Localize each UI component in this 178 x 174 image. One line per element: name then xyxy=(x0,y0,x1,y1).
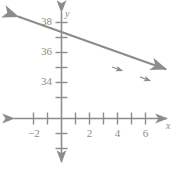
x-tick-label-2: 2 xyxy=(79,128,100,139)
y-tick-label-38: 38 xyxy=(26,16,52,27)
y-tick-label-34: 34 xyxy=(26,76,52,87)
y-axis-label: y xyxy=(65,9,69,19)
x-axis-label: x xyxy=(166,121,170,131)
graph-figure: 38 36 34 −2 2 4 6 x y xyxy=(0,0,178,174)
y-tick-label-36: 36 xyxy=(26,46,52,57)
x-tick-label-4: 4 xyxy=(107,128,128,139)
x-axis xyxy=(14,113,167,125)
x-tick-label-6: 6 xyxy=(135,128,156,139)
line-direction-marker-1 xyxy=(112,67,120,70)
x-tick-label--2: −2 xyxy=(22,128,46,139)
line-direction-marker-2 xyxy=(140,77,148,80)
